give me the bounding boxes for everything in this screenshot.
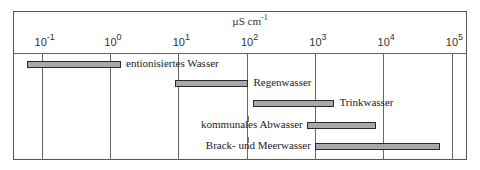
bar-label: Brack- und Meerwasser <box>206 139 311 151</box>
x-tick-label: 100 <box>104 33 121 48</box>
range-bar <box>175 80 248 87</box>
range-bar <box>315 143 440 150</box>
bar-label: Regenwasser <box>253 76 311 88</box>
x-tick-label: 101 <box>173 33 190 48</box>
x-tick-label: 105 <box>446 33 463 48</box>
leader-tick <box>248 137 249 143</box>
gridline <box>42 53 43 160</box>
range-bar <box>307 122 376 129</box>
x-tick-label: 104 <box>378 33 395 48</box>
x-tick-label: 103 <box>309 33 326 48</box>
axis-unit-label: µS cm-1 <box>200 13 300 27</box>
gridline <box>110 53 111 160</box>
range-bar <box>27 61 121 68</box>
axis-line <box>13 53 467 54</box>
bar-label: kommunales Abwasser <box>201 118 303 130</box>
gridline <box>452 53 453 160</box>
x-tick-label: 10-1 <box>35 33 55 48</box>
range-bar <box>253 100 334 107</box>
bar-label: Trinkwasser <box>339 96 393 108</box>
bar-label: entionisiertes Wasser <box>126 57 219 69</box>
gridline <box>178 53 179 160</box>
leader-tick <box>248 116 249 122</box>
x-tick-label: 102 <box>241 33 258 48</box>
